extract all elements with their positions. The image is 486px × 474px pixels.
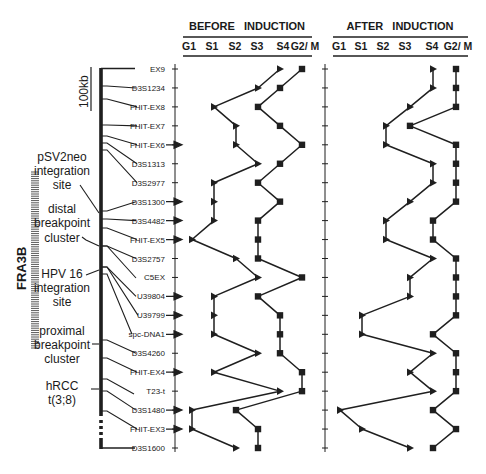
annotation-distal: distalbreakpointcluster bbox=[34, 202, 91, 245]
annotation-hpv16: HPV 16integrationsite bbox=[34, 267, 90, 309]
marker-label: U39799 bbox=[137, 311, 166, 320]
marker-label: spc-DNA1 bbox=[129, 330, 166, 339]
column-label-g2m: G2/ M bbox=[291, 40, 320, 52]
column-label-s1: S1 bbox=[206, 40, 219, 52]
square-marker bbox=[453, 66, 459, 72]
square-marker bbox=[453, 426, 459, 432]
annotation-hrcc: hRCCt(3;8) bbox=[46, 379, 79, 407]
square-marker bbox=[453, 369, 459, 375]
arrow-icon bbox=[166, 331, 182, 338]
marker-label: FHIT-EX7 bbox=[130, 122, 166, 131]
arrow-icon bbox=[166, 369, 182, 376]
arrow-icon bbox=[166, 236, 182, 243]
square-marker bbox=[277, 161, 283, 167]
column-label-s3: S3 bbox=[251, 40, 264, 52]
marker-label: D3S4260 bbox=[132, 349, 166, 358]
annotation-line: t(3;8) bbox=[48, 393, 76, 407]
marker-label: D3S1600 bbox=[132, 444, 166, 453]
square-marker bbox=[233, 407, 239, 413]
column-label-s1: S1 bbox=[355, 40, 368, 52]
square-marker bbox=[255, 217, 261, 223]
marker-label: D3S1300 bbox=[132, 198, 166, 207]
marker-label: FHIT-EX8 bbox=[130, 103, 166, 112]
panel-headers: BEFORE INDUCTIONG1S1S2S3S4G2/ MAFTER IND… bbox=[182, 20, 473, 56]
square-marker bbox=[255, 104, 261, 110]
column-label-s3: S3 bbox=[399, 40, 412, 52]
marker-label: D3S1313 bbox=[132, 160, 166, 169]
square-marker bbox=[277, 123, 283, 129]
arrow-icon bbox=[166, 198, 182, 205]
chromosome-gap-dash bbox=[99, 432, 103, 435]
marker-label: U39804 bbox=[137, 292, 166, 301]
arrow-icon bbox=[166, 293, 182, 300]
square-marker bbox=[453, 312, 459, 318]
square-marker bbox=[277, 85, 283, 91]
square-marker bbox=[453, 388, 459, 394]
arrow-icon bbox=[166, 217, 182, 224]
arrow-icon bbox=[166, 141, 182, 148]
column-label-g1: G1 bbox=[182, 40, 196, 52]
square-marker bbox=[453, 161, 459, 167]
annotation-line: integration bbox=[34, 164, 90, 178]
triangle-marker bbox=[430, 387, 437, 395]
square-marker bbox=[255, 293, 261, 299]
marker-label: FHIT-EX3 bbox=[130, 425, 166, 434]
triangle-marker bbox=[277, 387, 284, 395]
panel-title-before: BEFORE INDUCTION bbox=[189, 20, 305, 32]
annotation-leader bbox=[86, 270, 99, 275]
marker-label: FHIT-EX4 bbox=[130, 368, 166, 377]
chromosome-map: 100kbFRA3BpSV2neointegrationsitedistalbr… bbox=[14, 67, 138, 449]
annotation-leader bbox=[80, 185, 99, 213]
panel-title-after: AFTER INDUCTION bbox=[347, 20, 454, 32]
marker-label: T23-t bbox=[146, 387, 165, 396]
marker-label: D3S2757 bbox=[132, 255, 166, 264]
annotation-line: site bbox=[53, 178, 72, 192]
marker-connector bbox=[101, 274, 132, 334]
square-marker bbox=[277, 350, 283, 356]
annotation-line: proximal bbox=[39, 324, 84, 338]
annotation-line: cluster bbox=[44, 352, 79, 366]
triangle-marker bbox=[359, 425, 366, 433]
square-marker bbox=[255, 255, 261, 261]
square-marker bbox=[453, 350, 459, 356]
square-marker bbox=[277, 331, 283, 337]
square-marker bbox=[453, 180, 459, 186]
annotation-line: integration bbox=[34, 281, 90, 295]
annotation-line: pSV2neo bbox=[37, 150, 87, 164]
marker-connector bbox=[101, 379, 134, 394]
triangle-marker bbox=[211, 368, 218, 376]
marker-label: D3S4482 bbox=[132, 217, 166, 226]
figure: BEFORE INDUCTIONG1S1S2S3S4G2/ MAFTER IND… bbox=[0, 0, 486, 474]
column-label-g1: G1 bbox=[332, 40, 346, 52]
series-line-before-square bbox=[236, 69, 302, 448]
marker-axes: EX9D3S1234FHIT-EX8FHIT-EX7FHIT-EX6D3S131… bbox=[129, 64, 328, 453]
marker-label: FHIT-EX5 bbox=[130, 236, 166, 245]
square-marker bbox=[277, 312, 283, 318]
column-label-g2m: G2/ M bbox=[444, 40, 473, 52]
column-label-s4: S4 bbox=[277, 40, 290, 52]
square-marker bbox=[255, 236, 261, 242]
marker-label: D3S1234 bbox=[132, 84, 166, 93]
triangle-marker bbox=[430, 255, 437, 263]
square-marker bbox=[299, 388, 305, 394]
scale-label: 100kb bbox=[77, 75, 91, 108]
square-marker bbox=[299, 274, 305, 280]
annotation-psv2neo: pSV2neointegrationsite bbox=[34, 150, 90, 192]
square-marker bbox=[277, 198, 283, 204]
annotation-leader bbox=[82, 237, 99, 246]
triangle-marker bbox=[255, 349, 262, 357]
chromosome-gap-dash bbox=[99, 420, 103, 423]
square-marker bbox=[453, 85, 459, 91]
square-marker bbox=[453, 142, 459, 148]
square-marker bbox=[453, 104, 459, 110]
marker-label: EX9 bbox=[150, 65, 166, 74]
square-marker bbox=[453, 198, 459, 204]
triangle-marker bbox=[255, 274, 262, 282]
annotation-line: breakpoint bbox=[34, 216, 91, 230]
annotation-line: distal bbox=[48, 202, 76, 216]
square-marker bbox=[430, 236, 436, 242]
triangle-marker bbox=[407, 444, 414, 452]
marker-label: D3S2977 bbox=[132, 179, 166, 188]
square-marker bbox=[453, 255, 459, 261]
column-label-s4: S4 bbox=[426, 40, 439, 52]
